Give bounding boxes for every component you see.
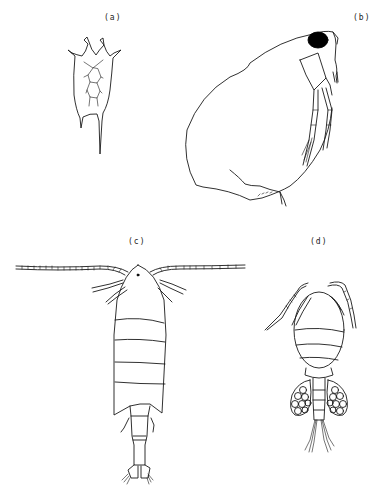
cyclopoid-copepod-drawing-d — [265, 282, 356, 452]
zooplankton-figure — [0, 0, 390, 485]
rotifer-drawing-a — [68, 37, 121, 154]
cladoceran-drawing-b — [186, 31, 338, 206]
calanoid-copepod-drawing-c — [16, 265, 245, 484]
